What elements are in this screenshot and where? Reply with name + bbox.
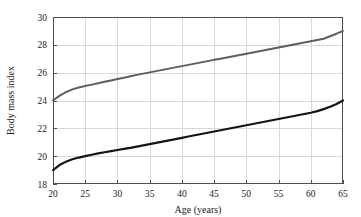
x-tick-label: 35	[145, 189, 155, 199]
x-tick-label: 60	[306, 189, 316, 199]
plot-area-background	[53, 17, 343, 184]
y-tick-label: 24	[38, 96, 48, 106]
x-tick-label: 20	[48, 189, 58, 199]
x-tick-label: 45	[209, 189, 219, 199]
x-tick-label: 55	[274, 189, 284, 199]
x-tick-label: 40	[177, 189, 187, 199]
chart-canvas: 20253035404550556065 18202224262830 Age …	[0, 0, 361, 217]
y-tick-label: 18	[38, 180, 48, 190]
y-axis-title: Body mass index	[5, 66, 16, 135]
y-tick-label: 20	[38, 152, 48, 162]
y-tick-label: 22	[38, 124, 48, 134]
x-tick-label: 25	[80, 189, 90, 199]
x-axis-title: Age (years)	[175, 204, 222, 216]
y-tick-label: 28	[38, 40, 48, 50]
x-tick-label: 30	[113, 189, 123, 199]
bmi-age-chart-figure: 20253035404550556065 18202224262830 Age …	[0, 0, 361, 217]
x-tick-label: 50	[242, 189, 252, 199]
y-tick-label: 30	[38, 13, 48, 23]
y-tick-label: 26	[38, 68, 48, 78]
x-tick-label: 65	[338, 189, 348, 199]
